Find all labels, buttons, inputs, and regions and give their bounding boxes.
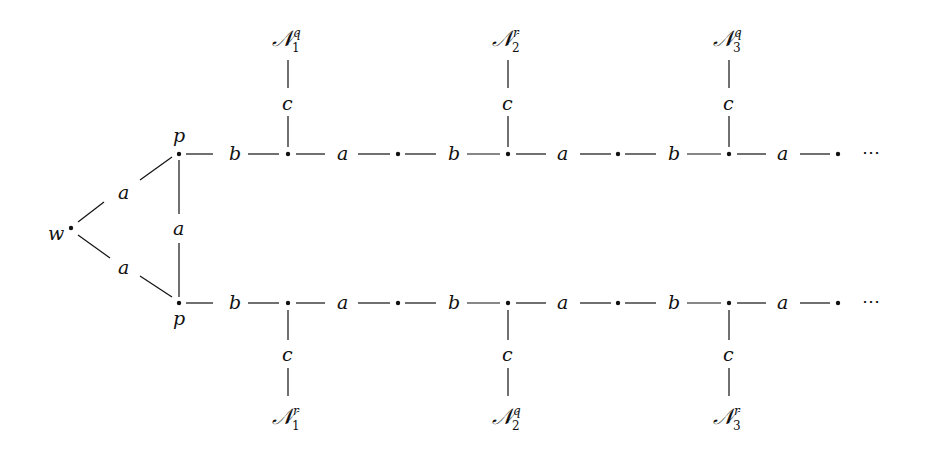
bottom-edge-label-5: b [668, 291, 680, 313]
bottom-continuation-dots: ⋯ [862, 290, 880, 311]
bottom-chain: b a b a b a ⋯ [186, 290, 880, 313]
bottom-node-1 [286, 301, 290, 305]
bottom-spur-2: c 𝒩 q 2 [492, 310, 521, 433]
top-spur-2: c 𝒩 r 2 [492, 26, 520, 147]
top-edge-label-6: a [777, 142, 788, 164]
top-node-3 [506, 152, 510, 156]
edge-w-p-top-1 [78, 202, 104, 222]
top-edge-label-5: b [668, 142, 680, 164]
bottom-edge-label-6: a [777, 291, 788, 313]
bottom-spur-1: c 𝒩 r 1 [272, 310, 300, 433]
svg-text:3: 3 [733, 41, 741, 55]
edge-w-p-bottom-1 [78, 235, 110, 258]
edge-label-p-p: a [173, 217, 184, 239]
svg-text:q: q [513, 404, 521, 418]
bottom-node-5 [727, 301, 731, 305]
bottom-node-2 [396, 301, 400, 305]
bottom-spur-3: c 𝒩 r 3 [713, 310, 741, 433]
p-top-label: p [173, 124, 185, 146]
svg-text:c: c [723, 92, 734, 114]
top-edge-label-3: b [448, 142, 460, 164]
svg-text:1: 1 [292, 41, 300, 55]
edge-label-w-p-top: a [118, 181, 129, 203]
p-bottom-label: p [173, 307, 185, 329]
top-spur-3: c 𝒩 q 3 [713, 26, 742, 147]
svg-text:q: q [734, 26, 742, 40]
svg-text:q: q [293, 26, 301, 40]
root-label-w: w [48, 222, 64, 244]
svg-text:c: c [502, 92, 513, 114]
p-top-node [177, 152, 181, 156]
graph-diagram: w a a p p a b a b a b [0, 0, 927, 452]
svg-text:c: c [502, 343, 513, 365]
bottom-node-3 [506, 301, 510, 305]
svg-text:r: r [293, 404, 300, 418]
top-edge-label-2: a [337, 142, 348, 164]
top-node-6 [836, 152, 840, 156]
edge-w-p-top-2 [140, 157, 172, 180]
top-node-2 [396, 152, 400, 156]
svg-text:c: c [282, 343, 293, 365]
bottom-edge-label-2: a [337, 291, 348, 313]
edge-w-p-bottom-2 [140, 276, 172, 297]
svg-text:c: c [282, 92, 293, 114]
svg-text:1: 1 [292, 419, 300, 433]
bottom-edge-label-3: b [448, 291, 460, 313]
svg-text:3: 3 [733, 419, 741, 433]
svg-text:c: c [723, 343, 734, 365]
top-node-5 [727, 152, 731, 156]
top-spur-1: c 𝒩 q 1 [272, 26, 301, 147]
top-node-4 [616, 152, 620, 156]
bottom-edge-label-1: b [229, 291, 241, 313]
top-continuation-dots: ⋯ [862, 141, 880, 162]
svg-text:2: 2 [512, 419, 520, 433]
root-node [69, 226, 73, 230]
p-bottom-node [177, 301, 181, 305]
bottom-node-6 [836, 301, 840, 305]
bottom-node-4 [616, 301, 620, 305]
edge-label-w-p-bottom: a [118, 256, 129, 278]
top-edge-label-1: b [229, 142, 241, 164]
svg-text:r: r [734, 404, 741, 418]
bottom-edge-label-4: a [557, 291, 568, 313]
svg-text:r: r [513, 26, 520, 40]
top-edge-label-4: a [557, 142, 568, 164]
top-chain: b a b a b a ⋯ [186, 141, 880, 164]
svg-text:2: 2 [512, 41, 520, 55]
top-node-1 [286, 152, 290, 156]
